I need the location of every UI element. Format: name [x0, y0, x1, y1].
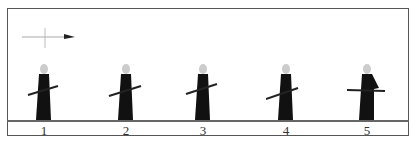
step-label-3: 3 — [193, 123, 213, 139]
step-label-1: 1 — [34, 123, 54, 139]
kendo-figure-3 — [183, 62, 223, 122]
kendo-figure-1 — [24, 62, 64, 122]
kendo-figure-4 — [266, 62, 306, 122]
kendo-figure-5 — [347, 62, 387, 122]
step-label-5: 5 — [357, 123, 377, 139]
step-label-4: 4 — [276, 123, 296, 139]
kendo-figure-2 — [106, 62, 146, 122]
step-label-2: 2 — [116, 123, 136, 139]
direction-arrow-icon — [22, 28, 77, 48]
